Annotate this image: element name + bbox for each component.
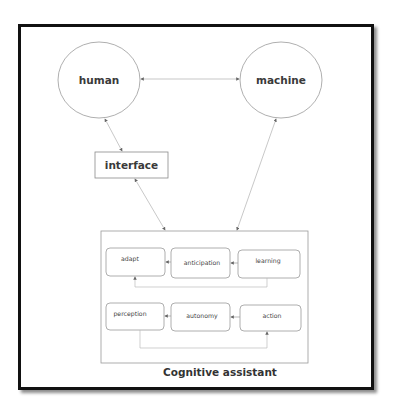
action-label: action: [262, 312, 281, 319]
autonomy-node: autonomy: [171, 303, 230, 331]
perception-label: perception: [113, 310, 146, 318]
learning-label: learning: [255, 257, 280, 265]
autonomy-label: autonomy: [186, 312, 218, 320]
interface-label: interface: [105, 159, 158, 171]
edge-interface-assistant: [135, 179, 165, 230]
human-label: human: [79, 74, 119, 86]
adapt-node: adapt: [106, 248, 165, 276]
interface-node: interface: [95, 152, 168, 178]
perception-node: perception: [106, 303, 164, 330]
machine-label: machine: [256, 74, 306, 86]
diagram-canvas: human machine interface adapt anticipati…: [0, 0, 395, 409]
adapt-label: adapt: [121, 255, 139, 263]
action-node: action: [240, 305, 301, 331]
learning-node: learning: [238, 250, 300, 278]
anticipation-label: anticipation: [184, 259, 221, 267]
anticipation-node: anticipation: [171, 248, 230, 278]
edge-machine-assistant: [237, 119, 276, 230]
human-node: human: [58, 42, 140, 118]
edge-human-interface: [105, 119, 122, 151]
machine-node: machine: [240, 42, 322, 118]
assistant-caption: Cognitive assistant: [163, 366, 277, 378]
